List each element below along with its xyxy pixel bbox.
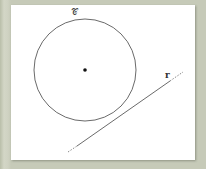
circle-label: 𝒞 bbox=[71, 7, 79, 17]
line-r-solid bbox=[77, 81, 170, 146]
line-label: r bbox=[165, 70, 170, 80]
line-r-dashed-start bbox=[68, 146, 77, 152]
geometry-figure: 𝒞 r bbox=[0, 0, 206, 169]
line-r-dashed-end bbox=[170, 72, 183, 81]
circle-center-point bbox=[83, 68, 87, 72]
